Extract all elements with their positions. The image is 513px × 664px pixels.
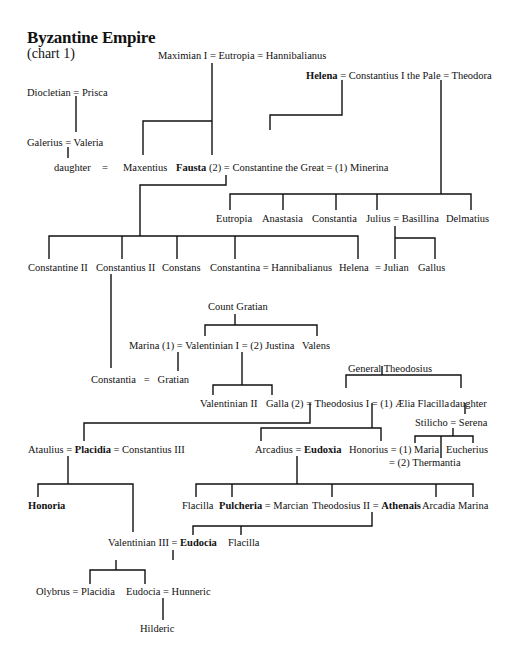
line-count-gratian-children: [205, 325, 317, 336]
node-honorius: Honorius = (1) Maria: [349, 444, 439, 456]
node-daughter-2: daughter: [450, 398, 487, 410]
node-constantine-2: Constantine II: [28, 262, 88, 274]
node-valens: Valens: [302, 340, 330, 352]
node-fausta-constantine: Fausta (2) = Constantine the Great = (1)…: [176, 162, 388, 174]
node-theodosius2-pre: Theodosius II =: [312, 500, 381, 511]
node-placidia-pre: Ataulius =: [28, 444, 75, 455]
line-julius-gallus: [395, 238, 435, 259]
node-olybrus: Olybrus = Placidia: [36, 586, 115, 598]
node-eudocia: Eudocia = Hunneric: [126, 586, 211, 598]
name-athenais: Athenais: [381, 500, 421, 511]
line-helena-constantine: [270, 80, 342, 130]
node-helena-rest: = Constantius I the Pale = Theodora: [338, 70, 492, 81]
node-marina: Marina: [458, 500, 488, 512]
node-daughter: daughter: [54, 162, 91, 174]
node-placidia-rest: = Constantius III: [111, 444, 185, 455]
node-constantia-1: Constantia: [312, 213, 357, 225]
node-maxentius: Maxentius: [123, 162, 167, 174]
node-constantina: Constantina = Hannibalianus: [210, 262, 332, 274]
node-stilicho: Stilicho = Serena: [415, 417, 487, 429]
line-constantine-children: [49, 236, 358, 259]
node-flacilla-2: Flacilla: [228, 537, 260, 549]
line-maximian-maxentius: [143, 121, 212, 155]
line-eudoxia-children: [196, 484, 473, 497]
node-galerius: Galerius = Valeria: [27, 137, 103, 149]
node-fausta-rest: (2) = Constantine the Great = (1) Mineri…: [206, 162, 388, 173]
node-gallus: Gallus: [418, 262, 445, 274]
node-helena-2: Helena: [339, 262, 369, 274]
node-diocletian: Diocletian = Prisca: [27, 87, 108, 99]
node-eutropia: Eutropia: [216, 213, 252, 225]
family-tree-chart: Byzantine Empire (chart 1) Maximian I = …: [0, 0, 513, 664]
chart-title: Byzantine Empire: [27, 28, 155, 48]
node-arcadia: Arcadia: [422, 500, 455, 512]
chart-subtitle: (chart 1): [27, 46, 75, 62]
name-helena: Helena: [306, 70, 338, 81]
line-stilicho-children: [415, 436, 473, 443]
node-julius: Julius = Basillina: [366, 213, 439, 225]
line-general-theodosius-children: [346, 375, 461, 388]
node-theodosius-1: Galla (2) = Theodosius I = (1) Ælia Flac…: [266, 398, 449, 410]
line-theodora-children: [230, 194, 471, 210]
node-count-gratian: Count Gratian: [208, 301, 268, 313]
name-eudocia: Eudocia: [180, 537, 217, 548]
line-eudocia-children: [90, 570, 145, 584]
node-constantia-gratian: Constantia = Gratian: [91, 374, 189, 386]
node-maximian: Maximian I = Eutropia = Hannibalianus: [158, 50, 326, 62]
node-valentinian-1: Marina (1) = Valentinian I = (2) Justina: [129, 340, 294, 352]
node-general-theodosius: General Theodosius: [348, 363, 432, 375]
line-justina-children: [213, 385, 272, 395]
connector-lines: [0, 0, 513, 664]
node-pulcheria: Pulcheria = Marcian: [219, 500, 308, 512]
line-athenais-children: [193, 512, 372, 535]
node-hilderic: Hilderic: [140, 623, 174, 635]
node-flacilla-1: Flacilla: [182, 500, 214, 512]
node-arcadius-pre: Arcadius =: [255, 444, 304, 455]
line-constantine-down: [140, 175, 226, 236]
node-honoria: Honoria: [28, 500, 65, 512]
node-helena-constantius: Helena = Constantius I the Pale = Theodo…: [306, 70, 492, 82]
node-valentinian3-pre: Valentinian III =: [108, 537, 180, 548]
node-arcadius: Arcadius = Eudoxia: [255, 444, 341, 456]
node-constans: Constans: [162, 262, 201, 274]
name-placidia: Placidia: [75, 444, 111, 455]
line-flacilla-children: [261, 428, 381, 441]
node-thermantia: = (2) Thermantia: [389, 457, 461, 469]
node-placidia: Ataulius = Placidia = Constantius III: [28, 444, 185, 456]
node-eucherius: Eucherius: [446, 444, 488, 456]
node-anastasia: Anastasia: [262, 213, 303, 225]
node-theodosius-2: Theodosius II = Athenais: [312, 500, 421, 512]
node-julian: = Julian: [375, 262, 409, 274]
node-delmatius: Delmatius: [446, 213, 489, 225]
node-valentinian-3: Valentinian III = Eudocia: [108, 537, 217, 549]
node-pulcheria-rest: = Marcian: [262, 500, 308, 511]
name-fausta: Fausta: [176, 162, 206, 173]
node-valentinian-2: Valentinian II: [200, 398, 257, 410]
name-pulcheria: Pulcheria: [219, 500, 262, 511]
node-eq: =: [102, 162, 108, 174]
name-eudoxia: Eudoxia: [304, 444, 341, 455]
node-constantius-2: Constantius II: [96, 262, 155, 274]
